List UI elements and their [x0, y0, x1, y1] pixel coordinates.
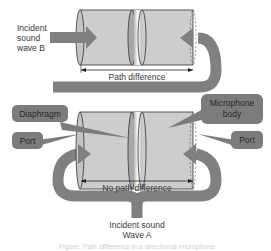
callout-port-left: Port	[12, 132, 80, 149]
callout-microphone-body-text-1: Microphone	[210, 98, 255, 108]
incident-wave-a-label-1: Incident sound	[109, 220, 165, 230]
path-difference-label: Path difference	[108, 72, 165, 82]
callout-port-left-text: Port	[20, 136, 36, 146]
incident-wave-a-label-2: Wave A	[123, 230, 152, 240]
callout-diaphragm-text: Diaphragm	[19, 109, 61, 119]
no-path-difference-label: No path difference	[102, 183, 172, 193]
incident-wave-b-label-2: sound	[17, 33, 40, 43]
callout-microphone-body: Microphone body	[168, 94, 263, 128]
figure-caption: Figure: Path difference in a directional…	[59, 243, 215, 251]
callout-port-right-text: Port	[239, 135, 255, 145]
callout-port-right: Port	[198, 131, 263, 149]
callout-microphone-body-text-2: body	[223, 109, 242, 119]
incident-wave-b-label-3: wave B	[16, 43, 45, 53]
diagram-canvas: Path difference Incident sound wave B No…	[0, 0, 271, 251]
incident-wave-b-label-1: Incident	[17, 23, 47, 33]
